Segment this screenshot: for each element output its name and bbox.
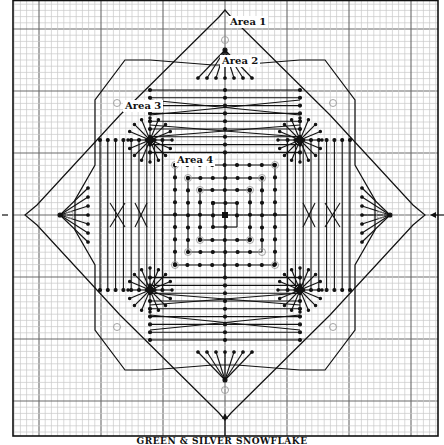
stitch-chart: Area 1Area 2Area 3Area 4 [0, 0, 444, 437]
arrow-right-icon [430, 212, 444, 218]
area-2-label: Area 2 [221, 55, 258, 66]
arrow-bottom-icon [222, 413, 228, 436]
center-square [222, 212, 228, 218]
area-4-label: Area 4 [176, 154, 213, 165]
area-3-label: Area 3 [124, 100, 161, 111]
chart-caption: GREEN & SILVER SNOWFLAKE [0, 437, 444, 445]
area-1-label: Area 1 [229, 16, 266, 27]
